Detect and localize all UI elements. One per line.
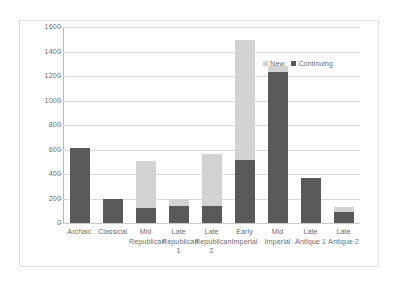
bar-slot [96,27,129,223]
bar-segment-continuing[interactable] [136,208,156,223]
bar-segment-continuing[interactable] [301,178,321,223]
bar-segment-continuing[interactable] [169,206,189,223]
legend-item-continuing: Continuing [291,59,332,68]
bar-stack[interactable] [202,154,222,223]
y-tick-label: 400 [23,170,61,178]
y-tick-mark [59,150,62,151]
x-tick-label: MidRepublican [129,227,162,246]
bar-stack[interactable] [301,178,321,223]
x-tick-label: Archaic [63,227,96,237]
y-tick-mark [59,76,62,77]
legend-swatch-new-icon [263,61,268,66]
y-tick-label: 800 [23,121,61,129]
y-tick-label: 1400 [23,48,61,56]
legend-swatch-continuing-icon [291,61,296,66]
bar-segment-continuing[interactable] [103,199,123,223]
bar-slot [228,27,261,223]
y-tick-mark [59,27,62,28]
y-tick-mark [59,174,62,175]
bar-stack[interactable] [70,148,90,223]
bar-stack[interactable] [334,207,354,223]
bar-segment-continuing[interactable] [334,212,354,223]
y-tick-mark [59,223,62,224]
x-tick-label: MidImperial [261,227,294,246]
bar-stack[interactable] [169,199,189,223]
y-tick-mark [59,125,62,126]
bar-slot [129,27,162,223]
bar-segment-new[interactable] [136,161,156,208]
bar-segment-continuing[interactable] [202,206,222,223]
x-tick-label: Classical [96,227,129,237]
legend-label-continuing: Continuing [298,59,332,68]
bar-stack[interactable] [103,199,123,223]
y-axis-tick-labels: 02004006008001000120014001600 [20,27,61,223]
bar-segment-continuing[interactable] [70,148,90,223]
bar-stack[interactable] [235,40,255,223]
bar-slot [195,27,228,223]
y-tick-label: 600 [23,146,61,154]
y-tick-label: 200 [23,195,61,203]
bar-segment-new[interactable] [202,154,222,206]
bar-segment-continuing[interactable] [235,160,255,223]
bar-slot [261,27,294,223]
x-tick-label: EarlyImperial [228,227,261,246]
y-tick-label: 1600 [23,23,61,31]
x-tick-label: LateRepublican1 [162,227,195,256]
x-tick-label: LateAntique 1 [294,227,327,246]
bar-segment-new[interactable] [169,199,189,207]
x-tick-label: LateAntique 2 [327,227,360,246]
chart-legend: New Continuing [263,59,333,68]
bar-segment-new[interactable] [235,40,255,159]
bar-slot [294,27,327,223]
plot-area [63,27,360,223]
y-tick-mark [59,52,62,53]
bar-stack[interactable] [136,161,156,223]
bar-segment-continuing[interactable] [268,72,288,223]
y-tick-label: 0 [23,219,61,227]
bar-stack[interactable] [268,66,288,223]
bar-slot [63,27,96,223]
y-tick-mark [59,199,62,200]
y-tick-mark [59,101,62,102]
legend-item-new: New [263,59,284,68]
x-axis-tick-labels: ArchaicClassicalMidRepublicanLateRepubli… [63,227,360,267]
legend-label-new: New [270,59,284,68]
gridline [63,223,360,224]
bar-slot [327,27,360,223]
chart-figure: 02004006008001000120014001600 ArchaicCla… [19,20,379,267]
y-tick-label: 1000 [23,97,61,105]
y-tick-label: 1200 [23,72,61,80]
x-tick-label: LateRepublican2 [195,227,228,256]
bar-slot [162,27,195,223]
